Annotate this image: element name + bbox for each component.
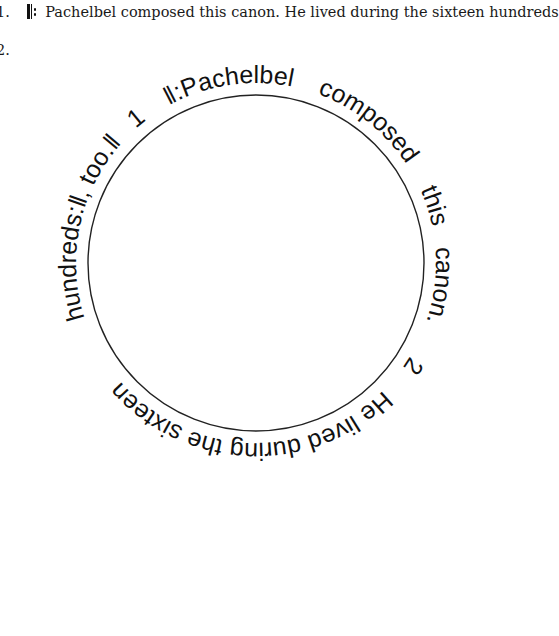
round-segment-1: composed [316,72,426,167]
round-text-segments: ‖:Pachelbelcomposedthiscanon.2He lived d… [53,60,459,466]
round-segment-8: 1 [121,102,150,132]
round-segment-2: this [416,181,455,228]
round-segment-7: too.‖ [72,128,125,188]
round-segment-0: ‖:Pachelbel [159,60,297,110]
round-circle [88,95,424,431]
round-segment-3: canon. [422,246,460,328]
round-segment-4: 2 [399,353,430,380]
